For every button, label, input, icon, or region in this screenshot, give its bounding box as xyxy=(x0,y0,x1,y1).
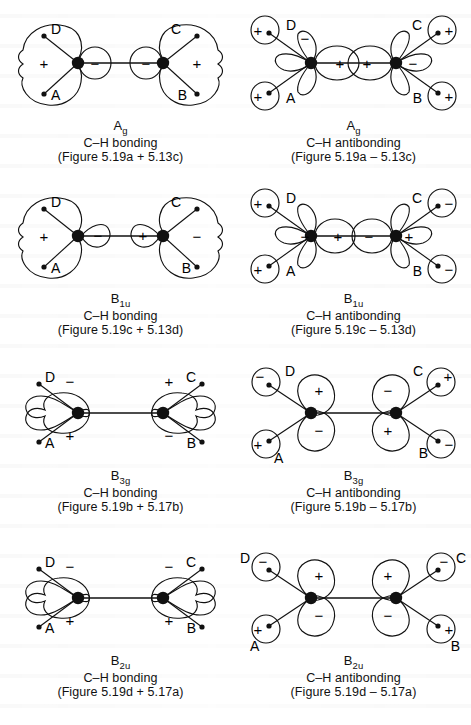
lobe-sign-right-lower: − xyxy=(384,607,393,624)
lobe-sign-right-outer: − xyxy=(409,55,418,72)
hydrogen-label-d: D xyxy=(45,554,55,570)
hydrogen-label-b: B xyxy=(182,260,191,276)
hydrogen-dot-b xyxy=(199,439,204,444)
hydrogen-label-a: A xyxy=(51,87,61,103)
carbon-atom-right xyxy=(157,230,169,242)
source-figure-label: (Figure 5.19b – 5.17b) xyxy=(236,500,471,515)
symmetry-label: B1u xyxy=(3,291,238,309)
symmetry-label: B2u xyxy=(3,653,238,671)
carbon-atom-right xyxy=(390,57,402,69)
hydrogen-label-b: B xyxy=(413,90,422,106)
hydrogen-sign-a: + xyxy=(254,621,263,638)
hydrogen-dot-b xyxy=(435,438,440,443)
symmetry-label: Ag xyxy=(3,118,238,136)
source-figure-label: (Figure 5.19b + 5.17b) xyxy=(3,500,238,515)
panel-ag-antibonding: + + + + D A C B − + + − Ag C–H antibondi… xyxy=(236,8,471,165)
hydrogen-label-a: A xyxy=(250,638,260,653)
source-figure-label: (Figure 5.19a + 5.13c) xyxy=(3,150,238,165)
lobe-sign-right-inner: + xyxy=(363,55,372,72)
lobe-sign-right-outer: + xyxy=(193,55,202,72)
caption-b3g-antibonding: B3g C–H antibonding (Figure 5.19b – 5.17… xyxy=(236,468,471,515)
hydrogen-label-a: A xyxy=(51,260,61,276)
lobe-sign-right-upper: + xyxy=(384,567,393,584)
carbon-atom-right xyxy=(157,57,169,69)
lobe-sign-right-outer: + xyxy=(405,228,414,245)
carbon-atom-left xyxy=(72,407,84,419)
hydrogen-label-d: D xyxy=(51,194,61,210)
hydrogen-label-c: C xyxy=(186,554,196,570)
hydrogen-sign-c: + xyxy=(444,368,453,385)
hydrogen-sign-d: − xyxy=(259,553,268,570)
hydrogen-dot-b xyxy=(435,90,440,95)
hydrogen-dot-d xyxy=(41,206,46,211)
hydrogen-sign-c: − xyxy=(440,553,449,570)
caption-b2u-antibonding: B2u C–H antibonding (Figure 5.19d – 5.17… xyxy=(236,653,471,700)
hydrogen-dot-c xyxy=(199,566,204,571)
lobe-sign-right-upper: + xyxy=(165,373,174,390)
caption-b3g-bonding: B3g C–H bonding (Figure 5.19b + 5.17b) xyxy=(3,468,238,515)
panel-b3g-bonding: D A C B − + + − B3g C–H bonding (Figure … xyxy=(3,358,238,515)
bond-type-label: C–H bonding xyxy=(3,136,238,151)
carbon-atom-right xyxy=(390,407,402,419)
carbon-atom-left xyxy=(72,592,84,604)
source-figure-label: (Figure 5.19d + 5.17a) xyxy=(3,685,238,700)
hydrogen-dot-a xyxy=(41,264,46,269)
orbital-drawing-ag-antibonding: + + + + D A C B − + + − xyxy=(236,8,471,118)
carbon-atom-right xyxy=(157,592,169,604)
lobe-sign-left-outer: + xyxy=(40,228,49,245)
panel-ag-bonding: D A C B + − − + Ag C–H bonding (Figure 5… xyxy=(3,8,238,165)
caption-b2u-bonding: B2u C–H bonding (Figure 5.19d + 5.17a) xyxy=(3,653,238,700)
hydrogen-dot-a xyxy=(36,624,41,629)
hydrogen-dot-c xyxy=(194,33,199,38)
hydrogen-dot-a xyxy=(41,91,46,96)
hydrogen-dot-b xyxy=(194,91,199,96)
carbon-atom-left xyxy=(305,407,317,419)
hydrogen-label-d: D xyxy=(51,21,61,37)
carbon-atom-right xyxy=(390,592,402,604)
panel-b1u-bonding: D A C B + − + − B1u C–H bonding (Figure … xyxy=(3,181,238,338)
orbital-drawing-b1u-antibonding: + + − − D A C B − + − + xyxy=(236,181,471,291)
lobe-sign-left-upper: − xyxy=(66,558,75,575)
hydrogen-dot-a xyxy=(266,623,271,628)
hydrogen-dot-a xyxy=(36,439,41,444)
lobe-sign-left-outer: − xyxy=(301,228,310,245)
bond-type-label: C–H antibonding xyxy=(236,136,471,151)
orbital-drawing-b3g-antibonding: − + + − D A C B + − − + xyxy=(236,358,471,468)
hydrogen-label-d: D xyxy=(45,369,55,385)
symmetry-label: B3g xyxy=(236,468,471,486)
lobe-sign-right-lower: + xyxy=(384,422,393,439)
hydrogen-dot-a xyxy=(266,90,271,95)
hydrogen-label-a: A xyxy=(45,620,55,636)
source-figure-label: (Figure 5.19d – 5.17a) xyxy=(236,685,471,700)
hydrogen-sign-a: + xyxy=(254,88,263,105)
lobe-sign-left-lower: − xyxy=(315,607,324,624)
hydrogen-dot-d xyxy=(36,381,41,386)
lobe-sign-left-lower: + xyxy=(66,612,75,629)
hydrogen-sign-d: + xyxy=(254,22,263,39)
carbon-atom-left xyxy=(72,230,84,242)
lobe-sign-left-inner: − xyxy=(91,55,100,72)
source-figure-label: (Figure 5.19c – 5.13d) xyxy=(236,323,471,338)
lobe-sign-left-inner: − xyxy=(94,227,103,244)
hydrogen-label-c: C xyxy=(412,17,422,33)
carbon-atom-left xyxy=(305,592,317,604)
panel-b1u-antibonding: + + − − D A C B − + − + B1u C–H antibond… xyxy=(236,181,471,338)
symmetry-label: B2u xyxy=(236,653,471,671)
lobe-sign-left-outer: − xyxy=(301,30,310,47)
orbital-drawing-b1u-bonding: D A C B + − + − xyxy=(3,181,238,291)
hydrogen-dot-d xyxy=(266,382,271,387)
lobe-sign-right-inner: − xyxy=(365,228,374,245)
hydrogen-label-a: A xyxy=(286,263,296,279)
hydrogen-label-c: C xyxy=(456,550,466,566)
lobe-sign-right-inner: + xyxy=(139,227,148,244)
bond-type-label: C–H bonding xyxy=(3,309,238,324)
hydrogen-label-a: A xyxy=(286,90,296,106)
lobe-sign-left-lower: + xyxy=(66,427,75,444)
lobe-sign-left-outer: + xyxy=(40,55,49,72)
bond-type-label: C–H antibonding xyxy=(236,671,471,686)
panel-b2u-bonding: D A C B − + − + B2u C–H bonding (Figure … xyxy=(3,543,238,700)
hydrogen-dot-c xyxy=(435,382,440,387)
hydrogen-dot-b xyxy=(435,263,440,268)
hydrogen-dot-d xyxy=(266,203,271,208)
hydrogen-dot-d xyxy=(266,30,271,35)
